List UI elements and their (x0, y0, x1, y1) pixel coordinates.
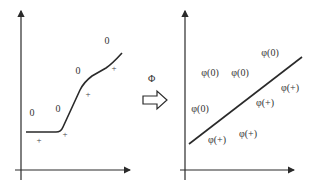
plus-class-point: + (36, 135, 41, 145)
phi-symbol: Φ (148, 73, 155, 84)
plus-class-point: + (111, 63, 116, 73)
mapped-zero-point: φ(0) (261, 47, 278, 59)
mapped-zero-point: φ(0) (231, 67, 248, 79)
feature-map-diagram: 0000 ++++ Φ φ(0)φ(0)φ(0)φ(0) φ(+)φ(+)φ(+… (0, 0, 317, 185)
zero-class-point: 0 (105, 35, 110, 46)
plus-class-point: + (62, 129, 67, 139)
right-plus-points: φ(+)φ(+)φ(+)φ(+) (208, 82, 299, 146)
feature-space-panel: φ(0)φ(0)φ(0)φ(0) φ(+)φ(+)φ(+)φ(+) (180, 11, 302, 180)
feature-mapping: Φ (143, 73, 167, 109)
mapped-plus-point: φ(+) (239, 128, 257, 140)
plus-class-point: + (85, 89, 90, 99)
mapped-plus-point: φ(+) (256, 97, 274, 109)
mapped-plus-point: φ(+) (208, 134, 226, 146)
zero-class-point: 0 (56, 103, 61, 114)
mapped-zero-point: φ(0) (201, 67, 218, 79)
nonlinear-decision-boundary (26, 53, 122, 132)
left-zero-points: 0000 (30, 35, 110, 118)
zero-class-point: 0 (76, 65, 81, 76)
zero-class-point: 0 (30, 107, 35, 118)
hollow-right-arrow-icon (143, 91, 167, 109)
input-space-panel: 0000 ++++ (15, 11, 130, 180)
mapped-plus-point: φ(+) (281, 82, 299, 94)
mapped-zero-point: φ(0) (191, 103, 208, 115)
